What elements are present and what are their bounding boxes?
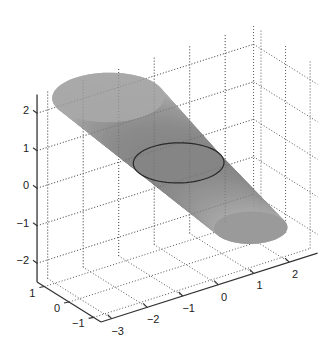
z-tick-label: −1 [16,217,29,229]
x-axis-line [101,253,318,322]
y-tick [64,302,69,303]
surface-plot-3d: −2−1012−101−3−2−1012 [0,0,326,353]
z-tick-label: 2 [23,104,29,116]
y-tick-label: 1 [29,287,35,299]
y-axis-line [37,282,101,322]
z-tick-label: −2 [16,254,29,266]
x-tick-label: 0 [221,291,227,303]
x-tick-label: 2 [292,268,298,280]
cross-section-middle-section [133,143,224,183]
y-tick-label: 0 [54,302,60,314]
grid-line-floor-y [94,248,311,317]
z-tick-label: 1 [23,142,29,154]
x-tick-label: −1 [182,302,195,314]
x-tick-label: 1 [257,279,263,291]
surface [37,35,287,279]
y-tick-label: −1 [72,317,85,329]
y-tick [39,287,44,288]
x-tick-label: −3 [111,325,124,337]
grid-line-floor-x [154,245,218,285]
x-tick-label: −2 [147,313,160,325]
y-tick [89,317,94,318]
grid-line-floor-x [119,256,183,296]
z-tick-label: 0 [23,179,29,191]
